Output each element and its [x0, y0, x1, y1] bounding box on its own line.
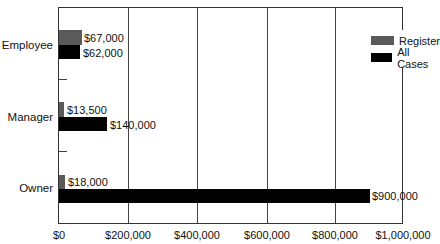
x-tick-label: $800,000 — [312, 229, 358, 241]
value-label: $67,000 — [84, 32, 124, 44]
category-separator-tick — [59, 151, 67, 152]
category-label-owner: Owner — [19, 182, 53, 194]
bar-manager-register — [59, 102, 64, 117]
value-label: $900,000 — [372, 190, 418, 202]
x-tick-label: $0 — [53, 229, 65, 241]
value-label: $13,500 — [67, 104, 107, 116]
value-label: $18,000 — [68, 176, 108, 188]
value-label: $62,000 — [83, 47, 123, 59]
legend-item-all-cases: All Cases — [371, 49, 440, 66]
x-tick-label: $1,000,000 — [375, 229, 430, 241]
bar-employee-all-cases — [59, 45, 80, 59]
bar-owner-register — [59, 175, 65, 189]
x-tick-label: $200,000 — [105, 229, 151, 241]
category-label-manager: Manager — [8, 111, 53, 123]
x-tick-label: $600,000 — [244, 229, 290, 241]
plot-area: $67,000 $62,000 $13,500 $140,000 $18,000… — [58, 7, 403, 224]
legend: Register All Cases — [371, 30, 440, 68]
legend-swatch-all-cases — [371, 53, 392, 62]
category-separator-tick — [59, 79, 67, 80]
value-label: $140,000 — [110, 119, 156, 131]
legend-label: All Cases — [397, 46, 440, 70]
x-tick-label: $400,000 — [174, 229, 220, 241]
legend-swatch-register — [371, 36, 394, 45]
bar-manager-all-cases — [59, 117, 107, 131]
category-label-employee: Employee — [2, 39, 53, 51]
bar-employee-register — [59, 30, 82, 45]
bar-owner-all-cases — [59, 189, 370, 203]
